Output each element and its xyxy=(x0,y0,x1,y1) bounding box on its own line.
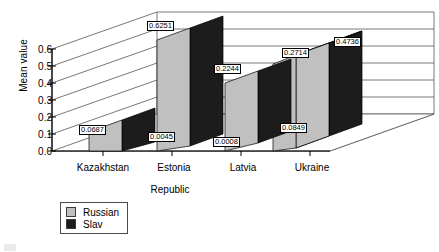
data-label-estonia-russian: 0.6251 xyxy=(147,21,174,31)
legend-swatch-russian xyxy=(66,207,76,217)
y-tick-0.4: 0.4 xyxy=(38,79,52,88)
data-label-estonia-slav: 0.0045 xyxy=(148,132,175,142)
x-tick-estonia: Estonia xyxy=(157,162,190,173)
y-tick-0.6: 0.6 xyxy=(38,45,52,54)
y-tick-0.3: 0.3 xyxy=(38,96,52,105)
data-label-latvia-slav: 0.0008 xyxy=(213,137,240,147)
legend-item-russian: Russian xyxy=(66,206,119,218)
y-tick-0.1: 0.1 xyxy=(38,130,52,139)
scan-artifact xyxy=(4,244,16,251)
x-axis-tick-labels: Kazakhstan Estonia Latvia Ukraine xyxy=(0,162,439,178)
bar-estonia-slav xyxy=(190,16,223,146)
chart-figure: Mean value 0.6 0.5 0.4 0.3 0.2 0.1 0.0 K… xyxy=(0,0,439,252)
y-axis-tick-labels: 0.6 0.5 0.4 0.3 0.2 0.1 0.0 xyxy=(24,46,52,158)
legend-item-slav: Slav xyxy=(66,218,119,230)
data-label-ukraine-slav: 0.0849 xyxy=(280,123,307,133)
x-axis-title: Republic xyxy=(0,184,340,195)
y-tick-0.0: 0.0 xyxy=(38,147,52,156)
x-tick-kazakhstan: Kazakhstan xyxy=(77,162,129,173)
data-label-latvia-russian: 0.2244 xyxy=(214,64,241,74)
y-tick-0.5: 0.5 xyxy=(38,62,52,71)
legend-swatch-slav xyxy=(66,219,76,229)
chart-legend: Russian Slav xyxy=(60,202,128,234)
data-label-ukraine-russian: 0.2714 xyxy=(282,48,309,58)
chart-x-axis xyxy=(52,151,330,156)
x-tick-latvia: Latvia xyxy=(230,162,257,173)
legend-label-slav: Slav xyxy=(83,219,102,230)
legend-label-russian: Russian xyxy=(83,207,119,218)
x-tick-ukraine: Ukraine xyxy=(295,162,329,173)
data-label-rightmost-slav: 0.4736 xyxy=(334,37,361,47)
data-label-kazakhstan-russian: 0.0687 xyxy=(79,125,106,135)
y-tick-0.2: 0.2 xyxy=(38,113,52,122)
